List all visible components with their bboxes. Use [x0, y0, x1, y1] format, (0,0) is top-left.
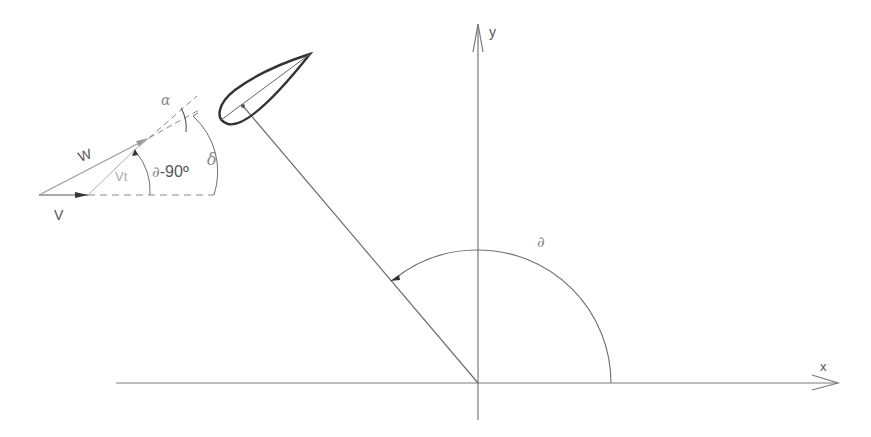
- alpha-label: α: [161, 92, 171, 108]
- theta-arc: [393, 250, 611, 383]
- velocity-diagram: x y ∂ V W Vt ∂-90º δ α: [0, 0, 871, 437]
- theta-minus-90-text: -90º: [160, 163, 189, 180]
- y-axis: [473, 24, 483, 420]
- theta-label: ∂: [537, 233, 545, 251]
- theta-minus-90-label: ∂-90º: [152, 163, 189, 181]
- alpha-arc: [181, 108, 186, 132]
- v-arrowhead-icon: [75, 192, 88, 198]
- w-extension-dashed: [149, 110, 199, 138]
- v-label: V: [54, 207, 64, 223]
- vt-vector: [88, 140, 145, 195]
- y-axis-label: y: [489, 24, 496, 40]
- airfoil-blade: [220, 54, 310, 124]
- delta-label: δ: [207, 150, 217, 169]
- theta-arrowhead-icon: [390, 275, 400, 281]
- w-label: W: [76, 145, 95, 165]
- vt-label: Vt: [115, 169, 128, 184]
- theta-minus-90-arc: [136, 152, 150, 195]
- x-axis-label: x: [820, 359, 827, 374]
- theta-minus-90-arrowhead-icon: [132, 149, 138, 156]
- radius-line: [243, 106, 478, 383]
- w-vector: [39, 140, 145, 195]
- blade-chord-extension-dashed: [149, 96, 197, 138]
